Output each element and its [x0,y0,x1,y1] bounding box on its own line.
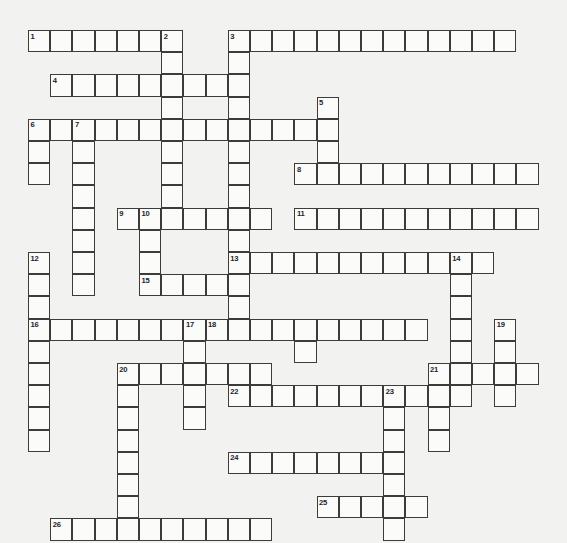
crossword-cell[interactable] [72,141,94,163]
crossword-cell[interactable] [183,341,205,363]
crossword-cell[interactable] [450,319,472,341]
crossword-cell[interactable] [450,208,472,230]
crossword-cell[interactable] [228,97,250,119]
crossword-cell[interactable] [405,163,427,185]
crossword-cell[interactable] [383,163,405,185]
crossword-cell-numbered[interactable]: 3 [228,30,250,52]
crossword-cell-numbered[interactable]: 7 [72,119,94,141]
crossword-cell[interactable] [139,252,161,274]
crossword-cell[interactable] [117,119,139,141]
crossword-cell[interactable] [361,385,383,407]
crossword-cell[interactable] [383,496,405,518]
crossword-cell[interactable] [95,119,117,141]
crossword-cell[interactable] [516,363,538,385]
crossword-cell[interactable] [383,407,405,429]
crossword-cell[interactable] [383,30,405,52]
crossword-cell[interactable] [161,363,183,385]
crossword-cell[interactable] [272,30,294,52]
crossword-cell[interactable] [250,252,272,274]
crossword-cell[interactable] [405,30,427,52]
crossword-cell[interactable] [228,163,250,185]
crossword-cell[interactable] [161,141,183,163]
crossword-cell[interactable] [228,319,250,341]
crossword-cell[interactable] [383,474,405,496]
crossword-cell-numbered[interactable]: 5 [317,97,339,119]
crossword-cell[interactable] [72,208,94,230]
crossword-cell[interactable] [72,319,94,341]
crossword-cell[interactable] [250,518,272,540]
crossword-cell[interactable] [272,452,294,474]
crossword-cell[interactable] [361,319,383,341]
crossword-cell[interactable] [117,452,139,474]
crossword-cell[interactable] [117,74,139,96]
crossword-cell-numbered[interactable]: 20 [117,363,139,385]
crossword-cell[interactable] [428,30,450,52]
crossword-cell[interactable] [183,518,205,540]
crossword-cell[interactable] [95,319,117,341]
crossword-cell-numbered[interactable]: 18 [206,319,228,341]
crossword-cell[interactable] [294,30,316,52]
crossword-cell[interactable] [317,452,339,474]
crossword-cell-numbered[interactable]: 23 [383,385,405,407]
crossword-cell-numbered[interactable]: 10 [139,208,161,230]
crossword-cell[interactable] [405,208,427,230]
crossword-cell-numbered[interactable]: 25 [317,496,339,518]
crossword-cell[interactable] [28,363,50,385]
crossword-cell[interactable] [450,296,472,318]
crossword-cell[interactable] [383,452,405,474]
crossword-cell[interactable] [383,518,405,540]
crossword-cell[interactable] [361,452,383,474]
crossword-cell[interactable] [72,252,94,274]
crossword-cell[interactable] [206,274,228,296]
crossword-cell[interactable] [183,274,205,296]
crossword-cell[interactable] [317,141,339,163]
crossword-cell[interactable] [250,119,272,141]
crossword-cell[interactable] [450,385,472,407]
crossword-cell[interactable] [183,385,205,407]
crossword-cell[interactable] [183,119,205,141]
crossword-cell[interactable] [28,407,50,429]
crossword-cell[interactable] [161,119,183,141]
crossword-cell[interactable] [428,385,450,407]
crossword-cell[interactable] [228,296,250,318]
crossword-cell[interactable] [139,363,161,385]
crossword-cell[interactable] [117,474,139,496]
crossword-cell[interactable] [339,30,361,52]
crossword-cell[interactable] [294,252,316,274]
crossword-cell[interactable] [28,274,50,296]
crossword-cell[interactable] [428,163,450,185]
crossword-cell[interactable] [361,496,383,518]
crossword-cell[interactable] [250,208,272,230]
crossword-cell[interactable] [272,385,294,407]
crossword-cell[interactable] [139,30,161,52]
crossword-cell[interactable] [117,385,139,407]
crossword-cell[interactable] [72,30,94,52]
crossword-cell-numbered[interactable]: 19 [494,319,516,341]
crossword-cell[interactable] [117,496,139,518]
crossword-cell[interactable] [317,163,339,185]
crossword-cell[interactable] [228,74,250,96]
crossword-cell[interactable] [95,74,117,96]
crossword-cell[interactable] [516,208,538,230]
crossword-cell[interactable] [72,518,94,540]
crossword-cell[interactable] [139,74,161,96]
crossword-cell[interactable] [428,430,450,452]
crossword-cell[interactable] [450,341,472,363]
crossword-cell-numbered[interactable]: 2 [161,30,183,52]
crossword-cell-numbered[interactable]: 13 [228,252,250,274]
crossword-cell[interactable] [317,252,339,274]
crossword-cell[interactable] [117,518,139,540]
crossword-cell[interactable] [450,163,472,185]
crossword-cell-numbered[interactable]: 14 [450,252,472,274]
crossword-cell[interactable] [228,119,250,141]
crossword-cell[interactable] [72,185,94,207]
crossword-cell[interactable] [28,341,50,363]
crossword-cell[interactable] [95,30,117,52]
crossword-cell[interactable] [50,119,72,141]
crossword-cell[interactable] [28,430,50,452]
crossword-cell[interactable] [139,230,161,252]
crossword-cell[interactable] [450,30,472,52]
crossword-cell[interactable] [317,385,339,407]
crossword-cell[interactable] [339,496,361,518]
crossword-cell[interactable] [317,30,339,52]
